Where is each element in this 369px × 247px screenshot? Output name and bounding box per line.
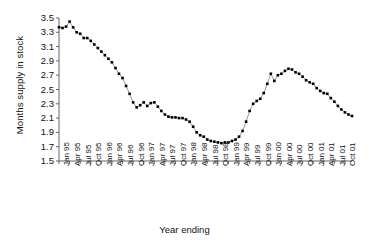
x-tick-label: Jan 01 — [317, 142, 326, 166]
chart-container: Months supply in stock 1.51.71.92.12.32.… — [0, 0, 369, 247]
x-tick-label: Jul 95 — [84, 145, 93, 166]
x-tick-label: Oct 96 — [137, 142, 146, 166]
x-tick-label: Jan 96 — [105, 142, 114, 166]
x-tick-label: Jul 01 — [338, 145, 347, 166]
x-tick-label: Apr 01 — [327, 142, 336, 166]
x-tick-label: Oct 99 — [264, 142, 273, 166]
x-tick-label: Apr 99 — [242, 142, 251, 166]
x-tick-label: Jul 96 — [126, 145, 135, 166]
x-tick-label: Jan 97 — [147, 142, 156, 166]
x-tick-label: Jan 95 — [62, 142, 71, 166]
x-tick-label: Apr 98 — [200, 142, 209, 166]
x-tick-label: Oct 95 — [94, 142, 103, 166]
x-axis-tick-labels: Jan 95Apr 95Jul 95Oct 95Jan 96Apr 96Jul … — [0, 0, 369, 247]
x-tick-label: Oct 00 — [306, 142, 315, 166]
x-tick-label: Jul 99 — [253, 145, 262, 166]
x-tick-label: Apr 95 — [73, 142, 82, 166]
x-tick-label: Jan 98 — [189, 142, 198, 166]
x-tick-label: Oct 98 — [221, 142, 230, 166]
x-axis-title: Year ending — [0, 224, 369, 235]
x-tick-label: Apr 97 — [158, 142, 167, 166]
x-tick-label: Oct 97 — [179, 142, 188, 166]
x-tick-label: Jan 00 — [274, 142, 283, 166]
x-tick-label: Jan 99 — [232, 142, 241, 166]
x-tick-label: Jul 97 — [168, 145, 177, 166]
x-tick-label: Apr 96 — [115, 142, 124, 166]
x-tick-label: Oct 01 — [348, 142, 357, 166]
x-tick-label: Jul 98 — [211, 145, 220, 166]
x-tick-label: Apr 00 — [285, 142, 294, 166]
x-tick-label: Jul 00 — [295, 145, 304, 166]
